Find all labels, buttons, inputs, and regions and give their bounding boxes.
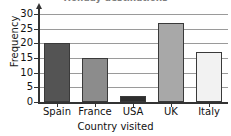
y-axis-tick-mark — [34, 29, 38, 30]
x-axis-tick-label-usa: USA — [123, 106, 144, 117]
gridline — [40, 29, 228, 30]
y-axis-tick-mark — [34, 73, 38, 74]
x-axis-title: Country visited — [0, 121, 231, 132]
y-axis-tick-label: 5 — [27, 82, 33, 92]
y-axis-tick-mark — [34, 58, 38, 59]
chart-title-clipped: Holiday destinations — [0, 0, 231, 5]
y-axis-tick-label: 10 — [20, 68, 33, 78]
y-axis-tick-mark — [34, 14, 38, 15]
y-axis-tick-mark — [34, 43, 38, 44]
y-axis-tick-label: 25 — [20, 24, 33, 34]
y-axis-tick-label: 15 — [20, 53, 33, 63]
y-axis-arrow-icon — [36, 3, 42, 9]
x-axis-tick-labels: SpainFranceUSAUKItaly — [38, 106, 228, 120]
x-axis-tick-label-italy: Italy — [198, 106, 220, 117]
gridline — [40, 14, 228, 15]
bar-italy — [196, 52, 222, 102]
bar-usa — [120, 96, 146, 102]
y-axis-tick-mark — [34, 102, 38, 103]
plot-area: 051015202530 — [38, 14, 228, 102]
chart-screenshot: Holiday destinations Frequency 051015202… — [0, 0, 231, 136]
x-axis-tick-label-spain: Spain — [43, 106, 71, 117]
y-axis-tick-label: 30 — [20, 9, 33, 19]
y-axis-tick-mark — [34, 87, 38, 88]
bar-uk — [158, 23, 184, 102]
bar-france — [82, 58, 108, 102]
x-axis-tick-label-uk: UK — [164, 106, 178, 117]
bar-spain — [44, 43, 70, 102]
y-axis-tick-label: 20 — [20, 38, 33, 48]
y-axis-tick-label: 0 — [27, 97, 33, 107]
x-axis-tick-label-france: France — [78, 106, 111, 117]
y-axis-title: Frequency — [9, 2, 20, 82]
chart-title-text: Holiday destinations — [0, 0, 231, 3]
